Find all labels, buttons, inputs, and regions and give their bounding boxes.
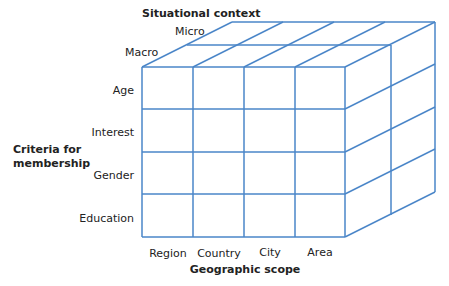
horizontal-label-country: Country <box>197 247 241 260</box>
depth-label-macro: Macro <box>125 46 159 59</box>
vertical-label-age: Age <box>113 84 135 97</box>
horizontal-axis-title: Geographic scope <box>190 263 301 276</box>
vertical-axis-title-line1: Criteria for <box>13 143 82 156</box>
horizontal-label-region: Region <box>149 247 187 260</box>
horizontal-label-city: City <box>259 246 281 259</box>
vertical-label-interest: Interest <box>92 126 135 139</box>
vertical-axis-title-line2: membership <box>13 157 90 170</box>
segmentation-cube-diagram: Situational context Micro Macro Age Inte… <box>0 0 449 286</box>
vertical-label-gender: Gender <box>93 169 134 182</box>
depth-label-micro: Micro <box>175 25 205 38</box>
depth-axis-title: Situational context <box>142 7 261 20</box>
cube-grid <box>142 22 435 237</box>
vertical-label-education: Education <box>79 212 134 225</box>
horizontal-label-area: Area <box>307 246 332 259</box>
